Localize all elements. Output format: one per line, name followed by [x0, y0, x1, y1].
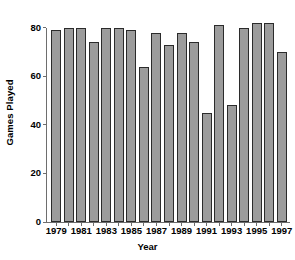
bar-1985 [126, 30, 136, 222]
bar-1984 [114, 28, 124, 222]
x-axis-tick-labels: 1979198119831985198719891991199319951997 [0, 226, 295, 242]
y-axis-tick-labels: 020406080 [18, 0, 44, 260]
bar-1994 [239, 28, 249, 222]
plot-area [50, 18, 288, 222]
x-tick-label-1995: 1995 [246, 226, 267, 236]
bar-1982 [89, 42, 99, 222]
bar-1997 [277, 52, 287, 222]
bar-1989 [177, 33, 187, 222]
bar-1991 [202, 113, 212, 222]
x-tick-label-1997: 1997 [271, 226, 292, 236]
bar-1993 [227, 105, 237, 222]
y-axis-title: Games Played [0, 0, 18, 224]
x-tick-label-1983: 1983 [96, 226, 117, 236]
bar-1996 [264, 23, 274, 222]
x-tick-label-1987: 1987 [146, 226, 167, 236]
bar-1987 [151, 33, 161, 222]
y-axis-title-label: Games Played [4, 79, 15, 145]
y-tick-label-60: 60 [30, 72, 41, 82]
bar-chart-figure: Games Played 020406080 19791981198319851… [0, 0, 295, 260]
x-tick-label-1985: 1985 [121, 226, 142, 236]
x-tick-label-1989: 1989 [171, 226, 192, 236]
bar-1992 [214, 25, 224, 222]
x-tick-label-1981: 1981 [71, 226, 92, 236]
bar-1980 [64, 28, 74, 222]
x-tick-label-1991: 1991 [196, 226, 217, 236]
bar-1988 [164, 45, 174, 222]
x-tick-label-1979: 1979 [46, 226, 67, 236]
bar-1983 [101, 28, 111, 222]
bar-1995 [252, 23, 262, 222]
y-tick-label-20: 20 [30, 169, 41, 179]
y-tick-label-40: 40 [30, 120, 41, 130]
bar-1986 [139, 67, 149, 222]
bar-1981 [76, 28, 86, 222]
bar-1979 [51, 30, 61, 222]
y-tick-label-80: 80 [30, 23, 41, 33]
x-tick-label-1993: 1993 [221, 226, 242, 236]
x-axis-title: Year [0, 241, 295, 252]
bar-1990 [189, 42, 199, 222]
